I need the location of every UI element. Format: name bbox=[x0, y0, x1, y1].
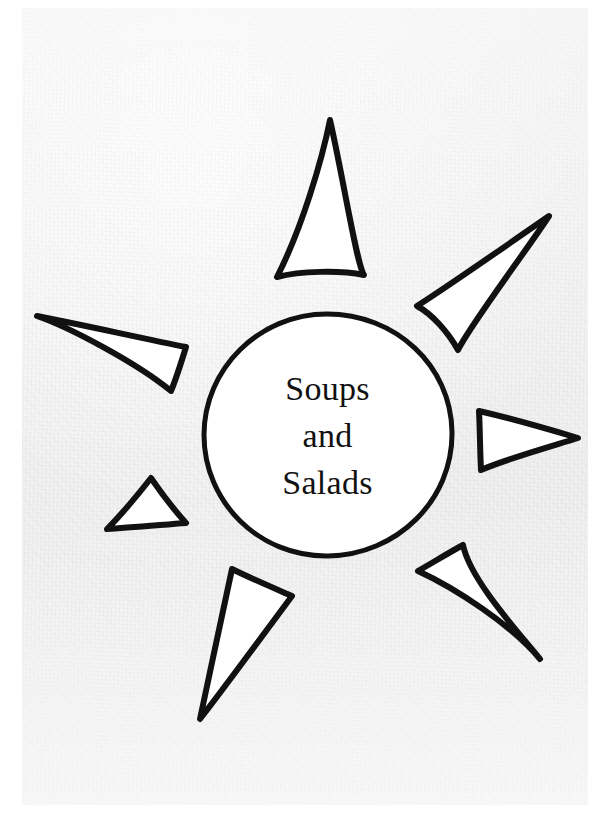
ray-left-icon bbox=[37, 316, 186, 391]
page-canvas: Soups and Salads bbox=[0, 0, 614, 828]
sun-disc bbox=[204, 314, 452, 556]
ray-right-icon bbox=[479, 411, 578, 470]
ray-lower-right-icon bbox=[418, 545, 540, 659]
ray-lower-left-icon bbox=[107, 478, 186, 529]
sun-illustration bbox=[0, 0, 614, 828]
ray-top-icon bbox=[277, 120, 364, 277]
ray-bottom-icon bbox=[200, 569, 292, 719]
ray-upper-right-icon bbox=[417, 216, 549, 350]
